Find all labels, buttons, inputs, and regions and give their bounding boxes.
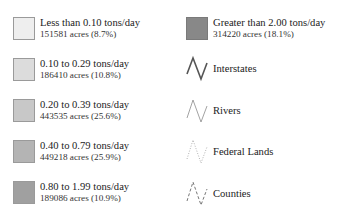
swatch-class-3 — [13, 99, 35, 122]
legend-class-3: 0.20 to 0.39 tons/day 443535 acres (25.6… — [13, 99, 129, 122]
line-label: Interstates — [213, 63, 257, 74]
class-range: Less than 0.10 tons/day — [40, 18, 140, 29]
class-range: 0.40 to 0.79 tons/day — [40, 141, 129, 152]
line-label: Federal Lands — [213, 146, 273, 157]
legend-class-1: Less than 0.10 tons/day 151581 acres (8.… — [13, 17, 140, 40]
swatch-class-5 — [13, 181, 35, 204]
legend-class-2: 0.10 to 0.29 tons/day 186410 acres (10.8… — [13, 58, 129, 81]
legend-line-rivers: Rivers — [186, 96, 241, 124]
federal-lands-line-icon — [186, 137, 208, 165]
legend-line-counties: Counties — [186, 179, 251, 207]
swatch-class-1 — [13, 17, 35, 40]
swatch-class-6 — [186, 17, 208, 40]
legend-class-6: Greater than 2.00 tons/day 314220 acres … — [186, 17, 325, 40]
class-acres: 443535 acres (25.6%) — [40, 112, 129, 121]
map-legend: Less than 0.10 tons/day 151581 acres (8.… — [0, 0, 343, 224]
class-range: Greater than 2.00 tons/day — [213, 18, 325, 29]
legend-line-interstates: Interstates — [186, 54, 257, 82]
county-line-icon — [186, 179, 208, 207]
swatch-class-4 — [13, 140, 35, 163]
class-range: 0.10 to 0.29 tons/day — [40, 59, 129, 70]
line-label: Counties — [213, 188, 251, 199]
class-acres: 449218 acres (25.9%) — [40, 153, 129, 162]
class-acres: 314220 acres (18.1%) — [213, 30, 325, 39]
class-range: 0.20 to 0.39 tons/day — [40, 100, 129, 111]
class-range: 0.80 to 1.99 tons/day — [40, 182, 129, 193]
class-acres: 151581 acres (8.7%) — [40, 30, 140, 39]
interstate-line-icon — [186, 54, 208, 82]
class-acres: 186410 acres (10.8%) — [40, 71, 129, 80]
river-line-icon — [186, 96, 208, 124]
legend-line-federal-lands: Federal Lands — [186, 137, 273, 165]
class-acres: 189086 acres (10.9%) — [40, 194, 129, 203]
legend-class-4: 0.40 to 0.79 tons/day 449218 acres (25.9… — [13, 140, 129, 163]
legend-class-5: 0.80 to 1.99 tons/day 189086 acres (10.9… — [13, 181, 129, 204]
swatch-class-2 — [13, 58, 35, 81]
line-label: Rivers — [213, 105, 241, 116]
